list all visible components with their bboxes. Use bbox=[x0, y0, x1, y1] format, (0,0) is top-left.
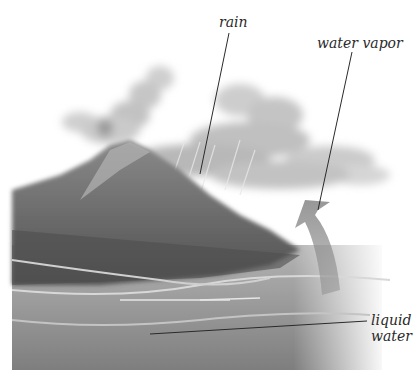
label-water-vapor: water vapor bbox=[317, 35, 403, 51]
label-liquid-water: liquid water bbox=[371, 312, 412, 344]
water-vapor-leader-line bbox=[318, 52, 352, 210]
label-rain: rain bbox=[219, 14, 248, 30]
label-liquid-line2: water bbox=[371, 328, 412, 344]
water-cycle-illustration bbox=[0, 0, 415, 387]
label-liquid-line1: liquid bbox=[371, 312, 412, 328]
